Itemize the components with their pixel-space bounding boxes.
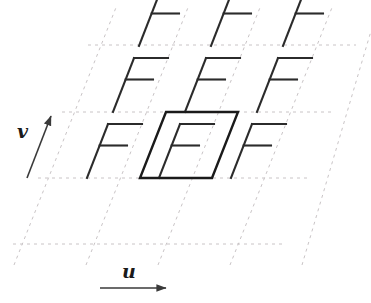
- grid-line-slanted: [230, 5, 333, 265]
- motif-F: [211, 0, 266, 46]
- lattice-diagram-svg: [0, 0, 371, 303]
- u-vector-label: u: [122, 262, 136, 281]
- motif-F: [257, 58, 312, 112]
- motif-F: [159, 124, 214, 178]
- grid-line-slanted: [14, 5, 117, 265]
- motif-F: [139, 0, 194, 46]
- motif-F: [283, 0, 338, 46]
- grid-lines-slanted: [14, 5, 371, 265]
- v-vector-arrow: [27, 116, 51, 178]
- motif-F: [185, 58, 240, 112]
- motif-F: [113, 58, 168, 112]
- grid-line-slanted: [158, 5, 261, 265]
- grid-line-slanted: [86, 5, 189, 265]
- lattice-grid: [13, 5, 371, 265]
- motif-F: [231, 124, 286, 178]
- lattice-figure: v u: [0, 0, 371, 303]
- grid-line-slanted: [302, 31, 371, 265]
- v-vector-label: v: [17, 122, 28, 141]
- motif-group: [87, 0, 338, 178]
- motif-F: [87, 124, 142, 178]
